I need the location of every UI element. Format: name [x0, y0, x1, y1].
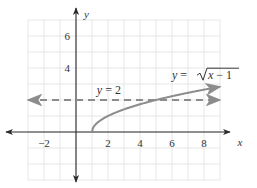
x-tick-label: 4: [137, 137, 143, 149]
annotations: y = 2y = x − 1: [96, 68, 239, 97]
x-tick-label: 2: [105, 137, 111, 149]
x-tick-label: −2: [38, 137, 50, 149]
x-axis-label: x: [237, 136, 243, 148]
label-y-equals-sqrt: y =: [171, 68, 187, 82]
y-axis-label: y: [83, 8, 89, 20]
y-tick-label: 4: [65, 62, 71, 74]
chart: xy −2246846 y = 2y = x − 1: [0, 0, 257, 188]
label-y-equals-2: y = 2: [96, 83, 121, 97]
label-eq: =: [177, 68, 187, 82]
label-eq: = 2: [102, 83, 121, 97]
y-tick-label: 6: [65, 30, 71, 42]
label-radicand: x − 1: [207, 68, 232, 82]
tick-labels: −2246846: [38, 30, 207, 149]
x-tick-label: 6: [169, 137, 175, 149]
x-tick-label: 8: [201, 137, 207, 149]
radicand-rest: − 1: [213, 68, 232, 82]
